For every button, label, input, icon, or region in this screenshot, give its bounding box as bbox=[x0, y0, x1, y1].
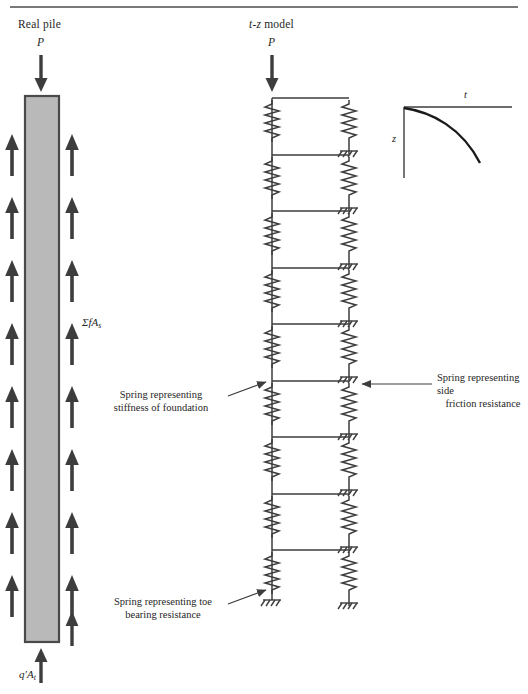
annotation-foundation-stiffness: Spring representing stiffness of foundat… bbox=[96, 388, 226, 414]
inset-curve bbox=[404, 108, 480, 163]
tz-model-title-prefix: t-z bbox=[249, 18, 261, 30]
real-pile-title: Real pile bbox=[18, 18, 61, 30]
pile-body bbox=[25, 96, 59, 642]
annotation-side-friction-line1: Spring representing side bbox=[437, 371, 528, 397]
tz-model-load-symbol: P bbox=[268, 36, 275, 48]
real-pile-load-symbol: P bbox=[37, 36, 44, 48]
annotation-toe-bearing: Spring representing toe bearing resistan… bbox=[100, 595, 226, 621]
pile-toe-arrow bbox=[35, 648, 48, 683]
inset-y-axis-label: z bbox=[392, 133, 396, 144]
shaft-friction-force-label: ΣfAs bbox=[82, 316, 101, 330]
model-load-arrow bbox=[266, 55, 279, 92]
pile-right-friction-arrows bbox=[65, 134, 79, 646]
real-pile-group bbox=[5, 55, 79, 683]
shaft-friction-force-subscript: s bbox=[98, 321, 101, 330]
figure-container: Real pile P ΣfAs q′At t-z model P t z Sp… bbox=[0, 0, 528, 694]
toe-bearing-force-subscript: t bbox=[34, 673, 36, 682]
pile-left-friction-arrows bbox=[5, 134, 19, 617]
pile-load-arrow bbox=[35, 55, 48, 92]
annotation-toe-bearing-line2: bearing resistance bbox=[100, 608, 226, 621]
toe-ground-symbol bbox=[261, 600, 281, 606]
side-friction-springs bbox=[342, 100, 356, 606]
annotation-side-friction-line2: friction resistance bbox=[437, 397, 528, 410]
tz-model-title-rest: model bbox=[261, 18, 294, 30]
leader-foundation-stiffness bbox=[228, 382, 266, 396]
annotation-foundation-stiffness-line2: stiffness of foundation bbox=[96, 401, 226, 414]
tz-model-title: t-z model bbox=[249, 18, 294, 30]
annotation-foundation-stiffness-line1: Spring representing bbox=[96, 388, 226, 401]
inset-x-axis-label: t bbox=[464, 89, 467, 100]
model-rungs bbox=[272, 98, 349, 550]
toe-bearing-force-label: q′At bbox=[19, 668, 36, 682]
leader-toe-bearing bbox=[228, 590, 266, 604]
annotation-side-friction: Spring representing side friction resist… bbox=[437, 371, 528, 410]
annotation-toe-bearing-line1: Spring representing toe bbox=[100, 595, 226, 608]
shaft-friction-force-text: ΣfA bbox=[82, 316, 98, 328]
tz-curve-inset bbox=[404, 107, 512, 178]
diagram-canvas bbox=[0, 0, 528, 694]
toe-bearing-force-text: q′A bbox=[19, 668, 34, 680]
annotation-leaders bbox=[228, 382, 432, 604]
tz-model-group bbox=[261, 55, 358, 609]
